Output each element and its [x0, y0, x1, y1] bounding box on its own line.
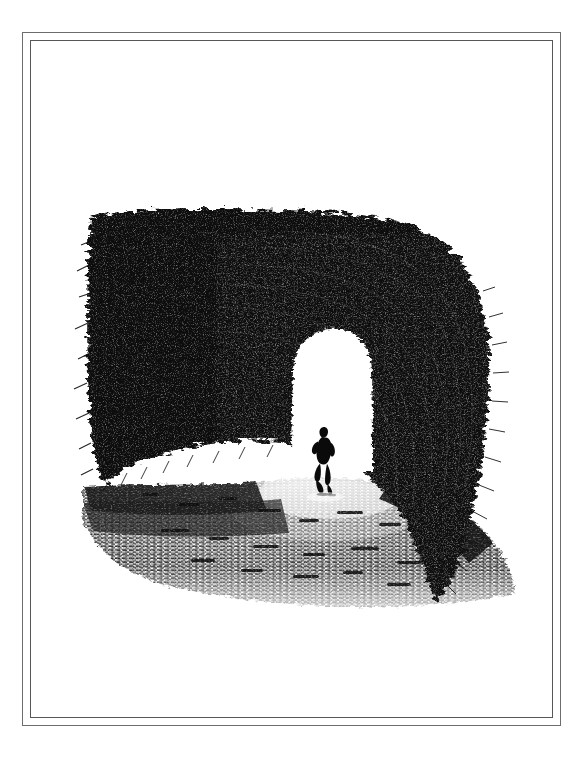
tunnel-left-edge	[71, 211, 107, 491]
figure-light-pool	[307, 492, 343, 502]
tunnel-mass	[31, 41, 552, 717]
illustration-page: Runner emerging from a dark tunnel archw…	[0, 0, 584, 763]
artwork-canvas	[31, 41, 552, 717]
ink-drawing	[31, 41, 552, 717]
